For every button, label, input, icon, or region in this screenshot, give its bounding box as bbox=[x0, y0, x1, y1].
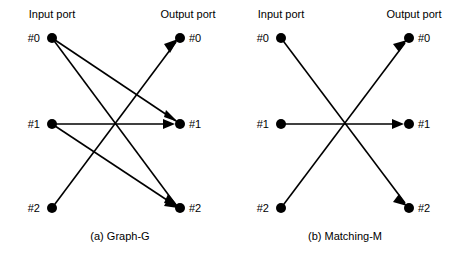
panel-b-caption: (b) Matching-M bbox=[308, 230, 382, 242]
node-input-2-label: #2 bbox=[28, 202, 40, 214]
node-b-output-1-label: #1 bbox=[418, 118, 430, 130]
edge-in1-out2 bbox=[52, 124, 176, 206]
node-b-input-1 bbox=[276, 119, 286, 129]
node-input-1-label: #1 bbox=[28, 118, 40, 130]
panel-a-caption: (a) Graph-G bbox=[90, 230, 149, 242]
node-input-0 bbox=[47, 33, 57, 43]
bipartite-graph-figure: Input port Output port #0 #1 #2 bbox=[0, 0, 457, 257]
edge-b-in0-out2 bbox=[281, 38, 405, 203]
node-b-input-0 bbox=[276, 33, 286, 43]
panel-b-input-nodes: #0 #1 #2 bbox=[257, 32, 286, 214]
panel-a-output-nodes: #0 #1 #2 bbox=[175, 32, 201, 214]
edge-b-in2-out0 bbox=[281, 43, 405, 208]
arrow-head-in1-out1 bbox=[163, 119, 175, 129]
node-b-input-2-label: #2 bbox=[257, 202, 269, 214]
node-output-2-label: #2 bbox=[189, 202, 201, 214]
panel-b-input-port-header: Input port bbox=[258, 8, 304, 20]
edge-in0-out2 bbox=[52, 38, 176, 205]
panel-b-output-nodes: #0 #1 #2 bbox=[404, 32, 430, 214]
node-input-0-label: #0 bbox=[28, 32, 40, 44]
arrow-head-b-in0-out2 bbox=[393, 194, 407, 206]
node-output-2 bbox=[175, 203, 185, 213]
panel-b-output-port-header: Output port bbox=[386, 8, 441, 20]
node-b-output-2 bbox=[404, 203, 414, 213]
arrow-head-in0-out1 bbox=[164, 110, 178, 122]
arrow-head-b-in1-out1 bbox=[392, 119, 404, 129]
arrow-head-in2-out0 bbox=[164, 39, 178, 53]
node-output-1 bbox=[175, 119, 185, 129]
node-input-2 bbox=[47, 203, 57, 213]
node-b-input-0-label: #0 bbox=[257, 32, 269, 44]
node-output-0-label: #0 bbox=[189, 32, 201, 44]
panel-matching-m: Input port Output port #0 #1 #2 #0 #1 bbox=[257, 8, 442, 242]
node-b-output-1 bbox=[404, 119, 414, 129]
node-b-output-0 bbox=[404, 33, 414, 43]
panel-a-input-port-header: Input port bbox=[29, 8, 75, 20]
panel-a-edges bbox=[52, 38, 178, 208]
node-b-output-0-label: #0 bbox=[418, 32, 430, 44]
node-output-0 bbox=[175, 33, 185, 43]
panel-b-edges bbox=[281, 38, 407, 208]
node-b-output-2-label: #2 bbox=[418, 202, 430, 214]
node-input-1 bbox=[47, 119, 57, 129]
node-b-input-2 bbox=[276, 203, 286, 213]
panel-graph-g: Input port Output port #0 #1 #2 bbox=[28, 8, 216, 242]
edge-in0-out1 bbox=[52, 38, 176, 121]
node-b-input-1-label: #1 bbox=[257, 118, 269, 130]
arrow-head-b-in2-out0 bbox=[393, 40, 407, 52]
edge-in2-out0 bbox=[52, 42, 176, 208]
panel-a-output-port-header: Output port bbox=[160, 8, 215, 20]
node-output-1-label: #1 bbox=[189, 118, 201, 130]
panel-a-input-nodes: #0 #1 #2 bbox=[28, 32, 57, 214]
